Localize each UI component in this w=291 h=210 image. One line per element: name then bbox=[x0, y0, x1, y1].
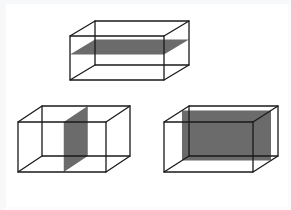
vertical-transverse-cross-section bbox=[64, 106, 88, 172]
edge-top-left-connector bbox=[70, 21, 95, 36]
edge-bottom-right-connector bbox=[106, 156, 130, 172]
edge-bottom-right-connector bbox=[164, 65, 189, 80]
edge-top-left-connector bbox=[18, 106, 42, 122]
cross-section-figure: Cross sections of rectangular prisms Thr… bbox=[0, 0, 291, 210]
edge-bottom-left-connector bbox=[70, 65, 95, 80]
prism-diagram-svg: Cross sections of rectangular prisms Thr… bbox=[0, 0, 291, 210]
prism-top: Top prism with horizontal cross sectionP… bbox=[70, 21, 189, 80]
edge-top-right-connector bbox=[106, 106, 130, 122]
prism-bottom-left: Bottom left prism with vertical transver… bbox=[18, 106, 130, 172]
vertical-longitudinal-cross-section bbox=[182, 110, 271, 160]
edge-top-right-connector bbox=[164, 21, 189, 36]
prism-bottom-right: Bottom right prism with vertical longitu… bbox=[164, 106, 278, 172]
horizontal-cross-section bbox=[70, 39, 189, 54]
edge-bottom-left-connector bbox=[18, 156, 42, 172]
front-face-edges bbox=[18, 122, 106, 172]
edge-bottom-left-connector bbox=[164, 156, 189, 172]
